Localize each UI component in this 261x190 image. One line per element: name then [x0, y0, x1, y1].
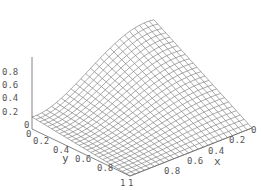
surface-plot: 0.8 0.6 0.4 0.2 0 0 0.2 0.4 0.6 0.8 1 y … — [0, 0, 261, 190]
mesh-line — [56, 103, 154, 167]
y-tick: 0 — [26, 129, 31, 139]
mesh-line — [100, 58, 198, 149]
mesh-line — [125, 35, 223, 139]
y-tick: 1 — [120, 178, 125, 188]
z-axis-ticks: 0.8 0.6 0.4 0.2 0 — [2, 67, 29, 130]
x-tick: 1 — [128, 178, 133, 188]
mesh-line — [44, 33, 166, 124]
x-tick: 0.2 — [229, 135, 245, 145]
mesh-line — [40, 29, 162, 122]
mesh-line — [63, 54, 185, 135]
x-tick: 0 — [251, 125, 256, 135]
z-tick: 0.6 — [2, 80, 18, 90]
mesh-line — [59, 50, 181, 133]
x-tick: 0.8 — [164, 166, 180, 176]
mesh-line — [122, 119, 244, 171]
y-tick: 0.6 — [75, 154, 91, 164]
z-tick: 0.2 — [2, 107, 18, 117]
x-axis-label: x — [214, 155, 221, 168]
y-axis-label: y — [62, 152, 69, 165]
x-tick: 0.6 — [187, 156, 203, 166]
mesh-line — [71, 63, 193, 141]
mesh-line — [139, 25, 237, 134]
z-tick: 0.8 — [2, 67, 18, 77]
z-tick: 0.4 — [2, 93, 18, 103]
y-tick: 0.2 — [33, 136, 49, 146]
mesh-line — [115, 44, 213, 144]
y-tick: 0.8 — [97, 163, 113, 173]
